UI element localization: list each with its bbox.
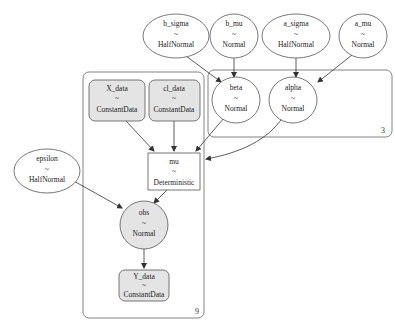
svg-text:ConstantData: ConstantData	[154, 105, 195, 114]
svg-text:HalfNormal: HalfNormal	[278, 40, 314, 49]
svg-text:~: ~	[172, 94, 176, 103]
svg-text:ConstantData: ConstantData	[124, 290, 165, 299]
svg-text:~: ~	[234, 94, 238, 103]
node-cl_data: cl_data ~ ConstantData	[149, 80, 200, 121]
edge-X_data-mu	[126, 121, 154, 151]
svg-text:~: ~	[361, 30, 365, 39]
node-a_mu: a_mu ~ Normal	[339, 14, 387, 58]
svg-text:beta: beta	[230, 83, 243, 92]
svg-text:~: ~	[115, 94, 119, 103]
svg-text:~: ~	[291, 94, 295, 103]
svg-text:Normal: Normal	[282, 104, 305, 113]
svg-text:~: ~	[294, 30, 298, 39]
node-beta: beta ~ Normal	[212, 77, 260, 123]
svg-text:Deterministic: Deterministic	[154, 178, 195, 187]
svg-text:Normal: Normal	[225, 104, 248, 113]
node-a_sigma: a_sigma ~ HalfNormal	[262, 14, 330, 58]
edge-b_sigma-beta	[186, 56, 221, 82]
svg-text:mu: mu	[169, 157, 179, 166]
svg-text:~: ~	[232, 30, 236, 39]
svg-text:b_sigma: b_sigma	[163, 19, 189, 28]
plate-9-label: 9	[195, 307, 199, 316]
svg-text:a_sigma: a_sigma	[284, 19, 310, 28]
node-alpha: alpha ~ Normal	[269, 77, 317, 123]
svg-text:ConstantData: ConstantData	[97, 105, 138, 114]
svg-text:~: ~	[172, 167, 176, 176]
svg-text:~: ~	[45, 165, 49, 174]
node-mu: mu ~ Deterministic	[148, 153, 200, 190]
edge-epsilon-obs	[72, 180, 122, 208]
edge-mu-obs	[154, 190, 167, 203]
edge-a_mu-alpha	[318, 55, 352, 82]
svg-text:epsilon: epsilon	[36, 154, 58, 163]
edge-beta-mu	[196, 118, 224, 151]
svg-text:a_mu: a_mu	[355, 19, 372, 28]
svg-text:~: ~	[142, 281, 146, 290]
svg-text:Normal: Normal	[352, 40, 375, 49]
svg-text:HalfNormal: HalfNormal	[158, 40, 194, 49]
node-Y_data: Y_data ~ ConstantData	[119, 270, 169, 301]
svg-text:HalfNormal: HalfNormal	[29, 175, 65, 184]
svg-text:~: ~	[174, 30, 178, 39]
node-X_data: X_data ~ ConstantData	[89, 80, 145, 121]
node-epsilon: epsilon ~ HalfNormal	[14, 149, 80, 193]
svg-text:obs: obs	[139, 208, 150, 217]
node-b_mu: b_mu ~ Normal	[210, 14, 258, 58]
node-b_sigma: b_sigma ~ HalfNormal	[143, 14, 209, 58]
svg-text:alpha: alpha	[285, 83, 302, 92]
svg-text:Normal: Normal	[133, 229, 156, 238]
edge-alpha-mu	[206, 117, 283, 159]
svg-text:cl_data: cl_data	[163, 84, 185, 93]
svg-text:X_data: X_data	[106, 84, 128, 93]
node-obs: obs ~ Normal	[120, 201, 168, 249]
model-graph: 3 9 b_sigma ~ HalfNormal b_mu ~ Normal a…	[0, 0, 395, 328]
svg-text:~: ~	[142, 219, 146, 228]
svg-text:b_mu: b_mu	[225, 19, 242, 28]
svg-text:Y_data: Y_data	[133, 272, 155, 281]
plate-3-label: 3	[381, 126, 385, 135]
svg-text:Normal: Normal	[223, 40, 246, 49]
